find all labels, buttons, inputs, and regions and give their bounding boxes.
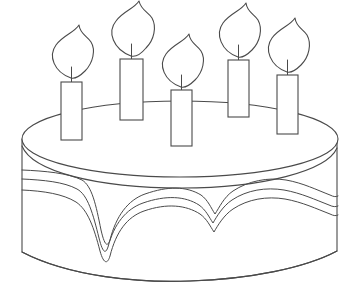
candle-body xyxy=(228,60,249,117)
candle-four[interactable] xyxy=(219,3,260,117)
flame-icon xyxy=(162,34,203,87)
flame-icon xyxy=(52,25,93,78)
flame-icon xyxy=(268,18,309,72)
candle-body xyxy=(277,75,298,134)
flame-icon xyxy=(112,1,155,56)
cake-drawing-canvas: Outline drawing of a round birthday cake… xyxy=(0,0,359,296)
cake-illustration: Outline drawing of a round birthday cake… xyxy=(0,0,359,296)
candle-body xyxy=(171,90,192,146)
candle-body xyxy=(120,59,143,120)
candle-body xyxy=(61,82,82,140)
flame-icon xyxy=(219,3,260,57)
